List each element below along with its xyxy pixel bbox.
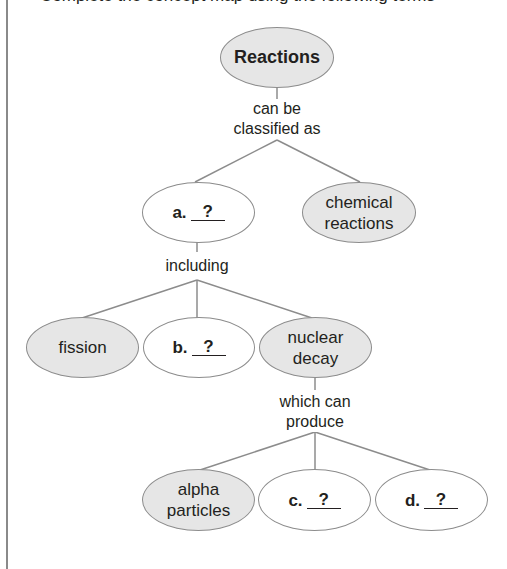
answer-blank-a[interactable]: ? (191, 204, 225, 221)
link-label-can-be-classified: can be classified as (217, 99, 337, 139)
node-b-blank[interactable]: b. ? (143, 317, 255, 378)
node-a-blank[interactable]: a. ? (142, 182, 255, 243)
answer-blank-c[interactable]: ? (307, 492, 341, 509)
node-reactions: Reactions (220, 27, 334, 88)
answer-blank-d[interactable]: ? (424, 492, 458, 509)
node-fission: fission (26, 317, 139, 378)
link-label-including: including (147, 256, 247, 276)
node-chemical-reactions: chemical reactions (302, 182, 416, 243)
link-label-which-can-produce: which can produce (260, 392, 370, 432)
node-nuclear-decay: nuclear decay (259, 317, 372, 378)
answer-blank-b[interactable]: ? (192, 339, 226, 356)
node-c-blank[interactable]: c. ? (258, 469, 371, 531)
node-d-blank[interactable]: d. ? (375, 469, 488, 531)
node-alpha-particles: alpha particles (142, 469, 255, 531)
node-label: Reactions (234, 47, 320, 68)
